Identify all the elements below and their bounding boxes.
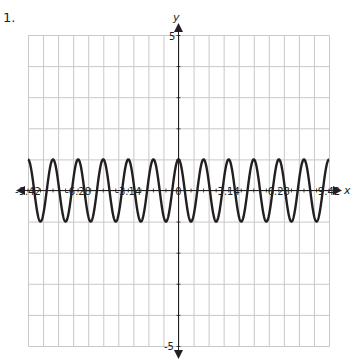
y-axis-label: y [172,11,180,24]
x-tick-label: 0 [175,186,181,197]
x-tick-label: -6.28 [65,186,91,197]
x-tick-label: -3.14 [115,186,141,197]
x-axis-label: x [343,184,351,197]
y-tick-bottom: -5 [164,341,174,352]
y-axis-down-arrow-icon [174,350,183,359]
x-tick-label: -9.42 [15,186,41,197]
graph: x y 5 -5 -9.42-6.28-3.1403.146.289.42 [0,0,364,359]
y-tick-top: 5 [169,31,175,42]
